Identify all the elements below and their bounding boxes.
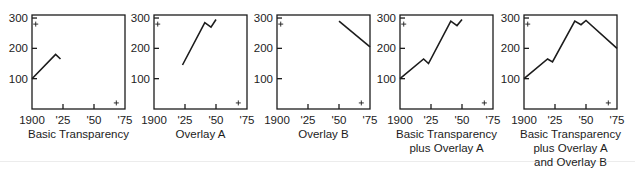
y-tick-label: 200 xyxy=(2,42,28,54)
x-tick-label: '50 xyxy=(447,114,477,126)
chart-caption: Basic Transparency xyxy=(511,128,631,141)
data-line xyxy=(400,20,462,79)
x-tick-label: 1900 xyxy=(509,114,539,126)
y-tick-label: 300 xyxy=(2,12,28,24)
data-line xyxy=(32,54,61,78)
x-tick-label: 1900 xyxy=(139,114,169,126)
registration-plus-icon xyxy=(401,22,406,27)
chart-caption: Overlay A xyxy=(141,128,261,141)
y-tick-label: 200 xyxy=(247,42,273,54)
y-tick-label: 200 xyxy=(370,42,396,54)
data-line xyxy=(183,20,217,66)
chart-caption: Basic Transparency xyxy=(387,128,507,141)
y-tick-label: 100 xyxy=(2,73,28,85)
registration-plus-icon xyxy=(606,100,611,105)
data-line xyxy=(524,21,617,79)
y-tick-label: 100 xyxy=(124,73,150,85)
x-tick-label: '50 xyxy=(571,114,601,126)
chart-caption: plus Overlay A xyxy=(387,142,507,155)
plot-frame xyxy=(277,15,370,109)
chart-caption: plus Overlay A xyxy=(511,142,631,155)
x-tick-label: '50 xyxy=(79,114,109,126)
chart-panel-basic-transparency: 3002001001900'25'50'75Basic Transparency xyxy=(0,0,125,171)
y-tick-label: 100 xyxy=(247,73,273,85)
registration-plus-icon xyxy=(359,100,364,105)
x-tick-label: '25 xyxy=(48,114,78,126)
x-tick-label: '25 xyxy=(416,114,446,126)
x-tick-label: 1900 xyxy=(262,114,292,126)
plot-frame xyxy=(32,15,125,109)
registration-plus-icon xyxy=(482,100,487,105)
y-tick-label: 300 xyxy=(494,12,520,24)
x-tick-label: '25 xyxy=(293,114,323,126)
registration-plus-icon xyxy=(236,100,241,105)
y-tick-label: 300 xyxy=(124,12,150,24)
y-tick-label: 100 xyxy=(494,73,520,85)
registration-plus-icon xyxy=(114,100,119,105)
chart-panel-overlay-b: 3002001001900'25'50'75Overlay B xyxy=(245,0,370,171)
y-tick-label: 200 xyxy=(124,42,150,54)
y-tick-label: 300 xyxy=(247,12,273,24)
x-tick-label: '25 xyxy=(170,114,200,126)
x-tick-label: '50 xyxy=(201,114,231,126)
chart-caption: Basic Transparency xyxy=(19,128,139,141)
x-tick-label: '50 xyxy=(324,114,354,126)
x-tick-label: '25 xyxy=(540,114,570,126)
chart-panel-basic-plus-overlay-a-and-b: 3002001001900'25'50'75Basic Transparency… xyxy=(492,0,617,171)
registration-plus-icon xyxy=(525,22,530,27)
x-tick-label: '75 xyxy=(602,114,632,126)
chart-caption: and Overlay B xyxy=(511,156,631,169)
chart-panel-basic-plus-overlay-a: 3002001001900'25'50'75Basic Transparency… xyxy=(368,0,493,171)
registration-plus-icon xyxy=(278,22,283,27)
x-tick-label: 1900 xyxy=(385,114,415,126)
data-line xyxy=(339,21,370,47)
chart-caption: Overlay B xyxy=(264,128,384,141)
y-tick-label: 100 xyxy=(370,73,396,85)
registration-plus-icon xyxy=(155,22,160,27)
x-tick-label: 1900 xyxy=(17,114,47,126)
y-tick-label: 300 xyxy=(370,12,396,24)
registration-plus-icon xyxy=(33,22,38,27)
chart-panel-overlay-a: 3002001001900'25'50'75Overlay A xyxy=(122,0,247,171)
y-tick-label: 200 xyxy=(494,42,520,54)
